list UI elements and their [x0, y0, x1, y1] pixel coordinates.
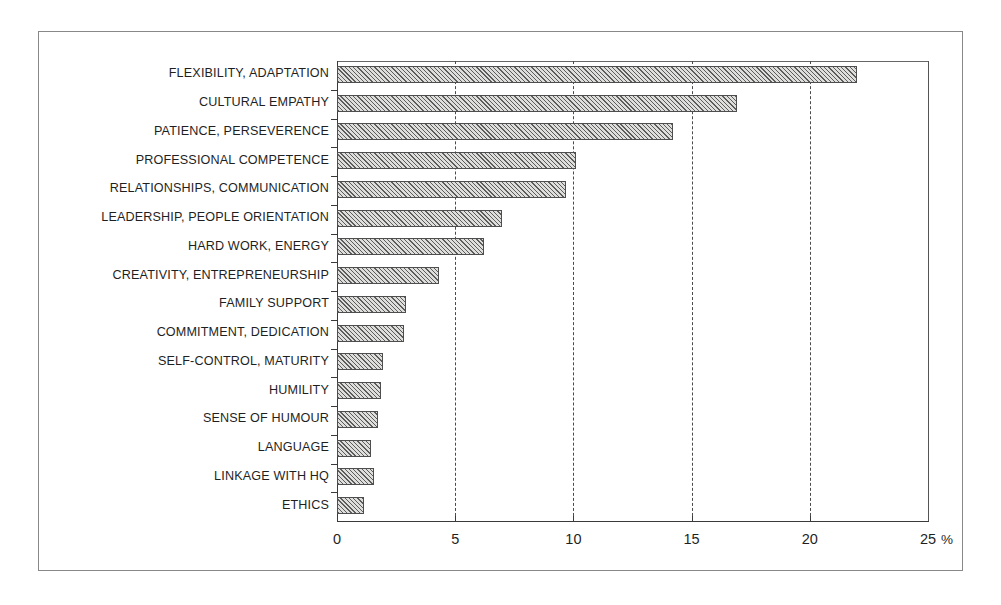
y-axis-tick: [331, 262, 338, 263]
bar: [337, 181, 566, 198]
y-axis-tick: [331, 234, 338, 235]
bar: [337, 95, 737, 112]
x-axis-tick: [692, 516, 693, 522]
y-axis-tick: [331, 147, 338, 148]
category-label: CULTURAL EMPATHY: [40, 95, 329, 109]
category-label: COMMITMENT, DEDICATION: [40, 325, 329, 339]
gridline: [692, 61, 693, 521]
bar: [337, 267, 439, 284]
bar: [337, 382, 381, 399]
y-axis-tick: [331, 464, 338, 465]
category-label: HUMILITY: [40, 383, 329, 397]
category-label: LINKAGE WITH HQ: [40, 469, 329, 483]
bar: [337, 238, 484, 255]
x-axis-tick-label: 20: [790, 531, 830, 547]
x-axis-tick: [810, 516, 811, 522]
bar: [337, 66, 857, 83]
x-axis-tick-label: 10: [553, 531, 593, 547]
x-axis-line: [337, 521, 929, 522]
category-label: SENSE OF HUMOUR: [40, 411, 329, 425]
y-axis-tick: [331, 205, 338, 206]
y-axis-tick: [331, 406, 338, 407]
category-label: PATIENCE, PERSEVERENCE: [40, 124, 329, 138]
bar: [337, 353, 383, 370]
x-axis-tick: [455, 516, 456, 522]
y-axis-tick: [331, 291, 338, 292]
y-axis-tick: [331, 176, 338, 177]
y-axis-tick: [331, 492, 338, 493]
x-axis-tick: [573, 516, 574, 522]
y-axis-tick: [331, 435, 338, 436]
gridline: [810, 61, 811, 521]
bar: [337, 152, 576, 169]
bar: [337, 497, 364, 514]
bar: [337, 123, 673, 140]
y-axis-tick: [331, 349, 338, 350]
category-label: PROFESSIONAL COMPETENCE: [40, 153, 329, 167]
plot-right-border: [928, 61, 929, 522]
category-label: FAMILY SUPPORT: [40, 296, 329, 310]
x-axis-tick-label: 15: [672, 531, 712, 547]
category-label: HARD WORK, ENERGY: [40, 239, 329, 253]
category-label: LANGUAGE: [40, 440, 329, 454]
x-axis-tick-label: 0: [317, 531, 357, 547]
category-label: CREATIVITY, ENTREPRENEURSHIP: [40, 268, 329, 282]
bar: [337, 411, 378, 428]
y-axis-tick: [331, 119, 338, 120]
plot-top-border: [337, 61, 929, 62]
category-label: LEADERSHIP, PEOPLE ORIENTATION: [40, 210, 329, 224]
figure-bar-chart: FLEXIBILITY, ADAPTATIONCULTURAL EMPATHYP…: [0, 0, 1001, 605]
x-axis-tick-label: 5: [435, 531, 475, 547]
category-label: SELF-CONTROL, MATURITY: [40, 354, 329, 368]
x-axis-unit-label: %: [941, 532, 953, 547]
y-axis-tick: [331, 377, 338, 378]
y-axis-tick: [331, 90, 338, 91]
bar: [337, 325, 404, 342]
bar: [337, 296, 406, 313]
bar: [337, 468, 374, 485]
bar: [337, 440, 371, 457]
category-label: RELATIONSHIPS, COMMUNICATION: [40, 181, 329, 195]
bar: [337, 210, 502, 227]
category-label: ETHICS: [40, 498, 329, 512]
y-axis-tick: [331, 320, 338, 321]
category-label: FLEXIBILITY, ADAPTATION: [40, 66, 329, 80]
